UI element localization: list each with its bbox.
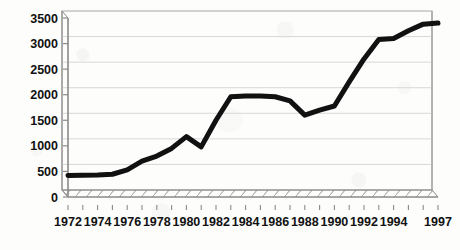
line-chart: 0500100015002000250030003500197219741976… [0, 0, 460, 250]
plot-frame-back [62, 11, 432, 190]
x-axis-tick-label: 1980 [172, 215, 200, 229]
x-axis-tick-label: 1992 [350, 215, 378, 229]
y-axis-tick-label: 1000 [30, 139, 58, 153]
axis-floor-hatch [62, 190, 438, 197]
y-axis-tick-label: 0 [51, 191, 58, 205]
x-axis-tick-label: 1972 [54, 215, 82, 229]
x-axis-tick-label: 1990 [320, 215, 348, 229]
x-axis-tick-label: 1978 [143, 215, 171, 229]
y-axis-tick-label: 1500 [30, 114, 58, 128]
y-axis-tick-label: 2500 [30, 63, 58, 77]
x-axis-tick-label: 1988 [291, 215, 319, 229]
axis-side-wall [62, 11, 68, 197]
y-axis-tick-label: 3500 [30, 12, 58, 26]
x-axis-tick-label: 1997 [424, 215, 452, 229]
x-axis-tick-label: 1994 [380, 215, 408, 229]
x-axis-tick-label: 1982 [202, 215, 230, 229]
data-line-series [68, 23, 438, 175]
y-axis-tick-label: 3000 [30, 37, 58, 51]
x-axis-tick-label: 1984 [232, 215, 260, 229]
x-axis-tick-label: 1986 [261, 215, 289, 229]
x-axis-tick-label: 1976 [113, 215, 141, 229]
y-axis-tick-label: 2000 [30, 88, 58, 102]
y-axis-tick-label: 500 [37, 165, 58, 179]
x-axis-tick-label: 1974 [84, 215, 112, 229]
chart-page: 0500100015002000250030003500197219741976… [0, 0, 460, 250]
